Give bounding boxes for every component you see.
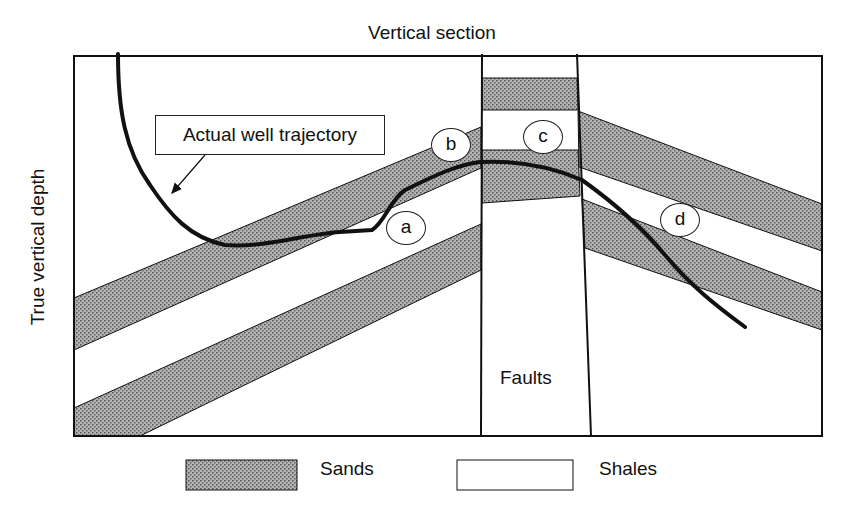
- zone-label-c: c: [523, 120, 563, 154]
- y-axis-label: True vertical depth: [27, 147, 49, 347]
- sand-layer-middle-lower: [482, 150, 580, 203]
- trajectory-callout-label: Actual well trajectory: [155, 115, 385, 155]
- diagram-title: Vertical section: [0, 22, 864, 44]
- zone-label-b: b: [431, 128, 471, 162]
- callout-arrow: [172, 155, 205, 193]
- legend-shales-swatch: [457, 460, 573, 490]
- faults-label: Faults: [500, 367, 552, 389]
- fault-line-1: [481, 54, 482, 436]
- zone-label-d: d: [660, 203, 700, 237]
- cross-section-diagram: [0, 0, 864, 513]
- legend-sands-label: Sands: [320, 458, 374, 480]
- legend-sands-swatch: [186, 460, 297, 490]
- legend-shales-label: Shales: [599, 458, 657, 480]
- sand-layer-middle-upper: [482, 78, 578, 110]
- zone-label-a: a: [386, 211, 426, 245]
